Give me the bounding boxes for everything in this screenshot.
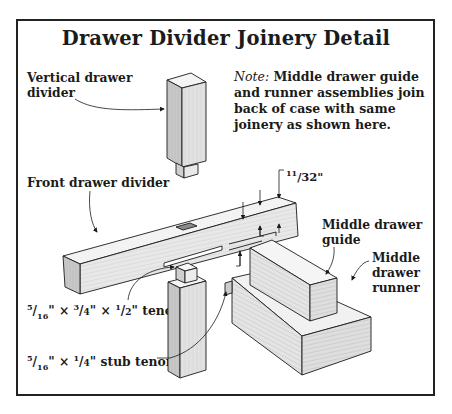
vertical-divider-tenon-right	[184, 164, 198, 178]
tenon-right-face	[185, 268, 197, 283]
vertical-divider-upper	[167, 73, 206, 178]
vertical-divider-left-face	[167, 80, 182, 167]
leader-middle-guide	[326, 247, 334, 274]
vertical-divider-right-face	[182, 82, 206, 167]
guide-end-face	[310, 278, 337, 321]
leader-top-offset	[279, 170, 284, 198]
leader-middle-runner	[352, 261, 369, 280]
joinery-illustration	[0, 0, 452, 414]
post-left-face	[168, 282, 180, 378]
leader-vertical-divider	[75, 99, 164, 110]
vertical-post-lower	[168, 263, 206, 378]
post-right-face	[180, 281, 206, 378]
diagram-canvas: Drawer Divider Joinery Detail Note: Midd…	[0, 0, 452, 414]
leader-front-divider	[89, 191, 97, 232]
